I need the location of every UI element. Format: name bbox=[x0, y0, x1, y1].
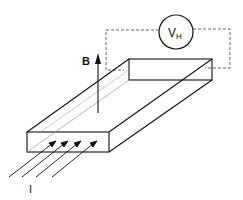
magnetic-field-label: B bbox=[82, 55, 90, 67]
voltmeter: VH bbox=[159, 15, 193, 49]
slab-inner-line bbox=[40, 70, 129, 132]
voltmeter-label-main: V bbox=[168, 26, 176, 40]
voltmeter-label-sub: H bbox=[176, 32, 182, 41]
current-label: I bbox=[29, 183, 32, 195]
slab-back-face bbox=[129, 59, 212, 80]
hall-effect-diagram: VH B bbox=[0, 0, 243, 200]
magnetic-field-arrow: B bbox=[82, 53, 101, 113]
slab-top-right-edge bbox=[109, 59, 212, 132]
diagram-canvas: VH B bbox=[0, 0, 243, 200]
conductor-slab bbox=[27, 59, 212, 152]
slab-bottom-right-edge bbox=[109, 80, 212, 152]
slab-top-left-edge bbox=[27, 59, 129, 132]
